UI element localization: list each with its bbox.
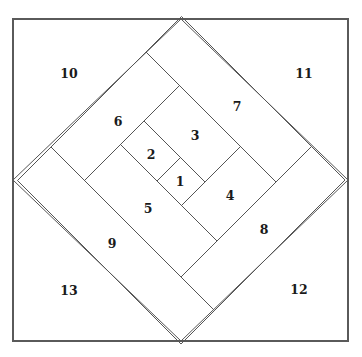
corner-label-13: 13 [60, 283, 77, 298]
piece-label-2: 2 [147, 147, 156, 162]
piece-label-4: 4 [226, 188, 235, 203]
piece-label-9: 9 [108, 236, 117, 251]
piece-label-3: 3 [191, 128, 200, 143]
corner-label-12: 12 [290, 282, 307, 297]
piece-label-8: 8 [260, 222, 269, 237]
corner-label-10: 10 [60, 66, 78, 81]
corner-label-11: 11 [295, 66, 312, 81]
piece-label-5: 5 [144, 201, 153, 216]
piece-label-6: 6 [114, 114, 123, 129]
quilt-block-diagram: 1 2 3 4 5 6 7 8 9 10 11 12 13 [0, 0, 362, 357]
piece-label-1: 1 [176, 174, 185, 189]
piece-label-7: 7 [233, 99, 242, 114]
